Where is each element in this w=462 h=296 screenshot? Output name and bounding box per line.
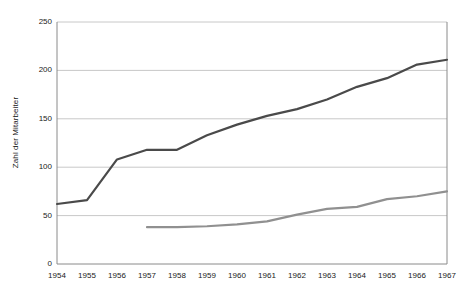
data-line-series-gray	[147, 191, 447, 227]
data-line-series-dark	[57, 60, 447, 204]
line-chart: Zahl der Mitarbeiter 050100150200250 195…	[0, 0, 462, 296]
plot-area	[0, 0, 462, 296]
axis-lines	[57, 22, 447, 264]
data-series	[57, 60, 447, 227]
gridlines	[57, 22, 447, 216]
